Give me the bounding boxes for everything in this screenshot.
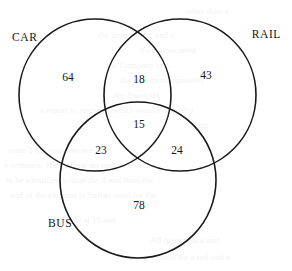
set-label-car: CAR [12,31,37,43]
count-car-rail: 18 [133,73,145,85]
venn-canvas: CAR RAIL BUS 64 18 43 15 23 24 78 [0,0,292,271]
count-car-only: 64 [62,71,74,83]
count-car-bus: 23 [95,144,107,156]
count-rail-bus: 24 [171,144,183,156]
venn-diagram-figure: other than a the items were, and it thei… [0,0,292,271]
count-rail-only: 43 [200,69,212,81]
count-bus-only: 78 [133,199,145,211]
count-car-rail-bus: 15 [133,118,145,130]
set-label-rail: RAIL [252,28,281,40]
set-label-bus: BUS [48,217,72,229]
